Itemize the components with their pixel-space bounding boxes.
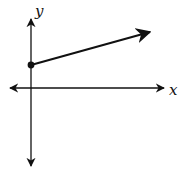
ray — [31, 32, 150, 65]
ray-endpoint — [28, 62, 35, 69]
coordinate-plane: y x — [0, 0, 186, 173]
x-axis-label: x — [169, 81, 178, 99]
y-axis-label: y — [34, 2, 44, 20]
